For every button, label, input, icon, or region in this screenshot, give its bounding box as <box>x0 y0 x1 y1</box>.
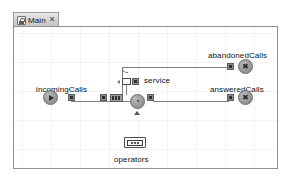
tab-main[interactable]: Main ✕ <box>13 12 59 27</box>
play-icon <box>44 91 57 104</box>
label-operators: operators <box>114 155 149 164</box>
connector-service-to-answered[interactable] <box>153 101 229 102</box>
block-operators[interactable] <box>124 137 146 148</box>
label-answered-calls: answeredCalls <box>210 85 264 94</box>
label-service: service <box>144 76 170 85</box>
port-abandoned-in[interactable] <box>227 63 234 70</box>
cross-icon: ✖ <box>239 60 252 73</box>
port-answered-in[interactable] <box>227 94 234 101</box>
cross-icon: ✖ <box>239 91 252 104</box>
resource-dots-icon <box>127 140 143 146</box>
diagram-canvas[interactable]: incomingCalls service ◔ abandonedCalls ✖… <box>13 26 278 169</box>
port-service-out[interactable] <box>147 94 154 101</box>
connector-seize-stub[interactable] <box>126 85 127 95</box>
clock-icon: ◔ <box>131 95 144 108</box>
editor-window: Main ✕ incomingCalls service <box>13 12 278 169</box>
port-source-out[interactable] <box>68 94 75 101</box>
port-queue-in[interactable] <box>100 94 107 101</box>
marker-resource-link <box>134 111 140 115</box>
port-seize-out[interactable] <box>132 78 139 85</box>
tab-strip: Main ✕ <box>13 12 278 27</box>
diagram-icon <box>17 16 26 25</box>
block-service[interactable]: ◔ <box>130 94 145 109</box>
label-abandoned-calls: abandonedCalls <box>208 51 267 60</box>
block-seize-node[interactable] <box>122 78 131 85</box>
block-abandoned-calls[interactable]: ✖ <box>238 59 253 74</box>
close-icon[interactable]: ✕ <box>48 16 56 24</box>
block-answered-calls[interactable]: ✖ <box>238 90 253 105</box>
connector-source-to-queue[interactable] <box>71 101 114 102</box>
block-queue[interactable] <box>110 94 123 102</box>
connector-branch-to-abandoned[interactable] <box>122 67 229 68</box>
tab-main-label: Main <box>28 16 46 25</box>
marker-seize-left <box>117 80 120 84</box>
block-incoming-calls[interactable] <box>43 90 58 105</box>
tab-strip-empty-area <box>71 12 278 27</box>
